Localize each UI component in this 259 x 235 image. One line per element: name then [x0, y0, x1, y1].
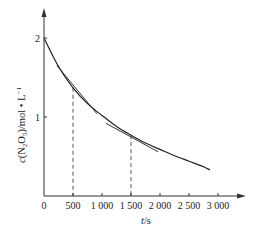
y-tick-label: 1 [35, 112, 40, 123]
x-tick-label: 3 000 [207, 200, 230, 211]
y-axis-ticks: 12 [35, 33, 47, 123]
tangent-line [106, 123, 158, 151]
y-tick-label: 2 [35, 33, 40, 44]
y-axis-arrow-icon [42, 8, 47, 17]
x-axis-arrow-icon [237, 194, 246, 199]
x-tick-label: 500 [66, 200, 81, 211]
x-tick-label: 0 [42, 200, 47, 211]
x-tick-label: 2 000 [149, 200, 172, 211]
plot-area [44, 38, 210, 196]
y-axis-title: c(N2O5)/mol • L−1 [15, 87, 29, 163]
concentration-time-chart: 05001 0001 5002 0002 5003 000 12 t/s c(N… [0, 0, 259, 235]
x-tick-label: 2 500 [178, 200, 201, 211]
x-tick-label: 1 500 [120, 200, 143, 211]
x-axis-title: t/s [141, 215, 151, 226]
concentration-curve [44, 38, 210, 170]
x-tick-label: 1 000 [91, 200, 114, 211]
